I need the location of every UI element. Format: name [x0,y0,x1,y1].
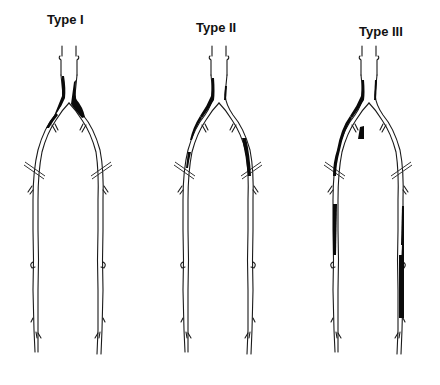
type-3-vessel-tree [324,46,412,354]
plaque-aortic-right [71,80,85,118]
plaque-aortic [54,76,65,116]
type-1-vessel-tree [24,46,112,354]
vessel-illustrations [0,0,440,385]
type-2-vessel-tree [174,46,262,354]
